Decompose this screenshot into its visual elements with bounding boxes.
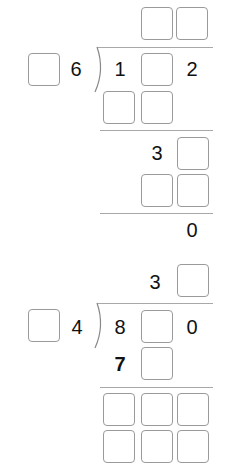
step3-ones-blank[interactable] [177, 430, 209, 463]
quotient-ones-blank[interactable] [177, 264, 209, 297]
step2-tens-blank[interactable] [141, 393, 173, 426]
step2-ones-blank[interactable] [177, 393, 209, 426]
dividend-ones-digit: 0 [182, 315, 202, 339]
step1-hundreds-digit: 7 [110, 352, 130, 376]
step1-tens-blank[interactable] [141, 347, 173, 380]
quotient-tens-digit: 3 [145, 270, 165, 294]
subtraction-line-1 [100, 387, 213, 388]
division-bracket [90, 303, 106, 351]
dividend-hundreds-digit: 8 [110, 315, 130, 339]
step3-tens-blank[interactable] [141, 430, 173, 463]
step2-hundreds-blank[interactable] [103, 393, 135, 426]
divisor-ones-digit: 4 [67, 315, 87, 339]
dividend-tens-blank[interactable] [141, 310, 173, 343]
division-bar [97, 303, 213, 304]
step3-hundreds-blank[interactable] [103, 430, 135, 463]
divisor-tens-blank[interactable] [28, 309, 60, 342]
